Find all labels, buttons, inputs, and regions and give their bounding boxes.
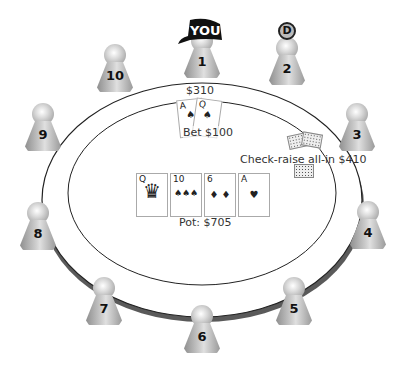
seat-9: 9 bbox=[23, 103, 63, 153]
seat-1-bet: Bet $100 bbox=[183, 126, 233, 139]
board-card-4: A ♥ bbox=[238, 173, 270, 217]
seat-6: 6 bbox=[182, 305, 222, 355]
board-card-1: Q ♛ bbox=[136, 173, 168, 217]
seat-number: 9 bbox=[23, 127, 63, 142]
seat-number: 2 bbox=[267, 61, 307, 76]
you-label: YOU bbox=[190, 23, 221, 38]
card-rank: 10 bbox=[173, 175, 184, 184]
seat-7: 7 bbox=[84, 277, 124, 327]
seat-1-stack: $310 bbox=[186, 84, 214, 97]
seat-number: 1 bbox=[182, 54, 222, 69]
queen-face-icon: ♛ bbox=[137, 186, 167, 196]
card-back-icon bbox=[294, 164, 314, 178]
dealer-button-icon: D bbox=[278, 22, 296, 40]
diamond-pips-icon: ♦ ♦ bbox=[205, 190, 235, 200]
seat-10: 10 bbox=[95, 44, 135, 94]
poker-table-diagram: 1 2 3 4 5 6 7 8 9 10 bbox=[0, 0, 404, 370]
seat-number: 7 bbox=[84, 301, 124, 316]
seat-number: 6 bbox=[182, 329, 222, 344]
spade-pips-icon: ♠♠♠ bbox=[171, 188, 201, 198]
seat-4: 4 bbox=[348, 201, 388, 251]
card-rank: A bbox=[241, 175, 247, 184]
seat-number: 8 bbox=[18, 226, 58, 241]
board-card-3: 6 ♦ ♦ bbox=[204, 173, 236, 217]
seat-2: 2 bbox=[267, 37, 307, 87]
seat-number: 4 bbox=[348, 225, 388, 240]
seat-number: 3 bbox=[337, 127, 377, 142]
seat-8: 8 bbox=[18, 202, 58, 252]
seat-5: 5 bbox=[274, 277, 314, 327]
card-suit-icon: ♠ bbox=[195, 108, 220, 121]
pot-label: Pot: $705 bbox=[179, 216, 231, 229]
heart-pip-icon: ♥ bbox=[239, 190, 269, 200]
seat-3: 3 bbox=[337, 103, 377, 153]
seat-number: 5 bbox=[274, 301, 314, 316]
card-rank: 6 bbox=[207, 175, 213, 184]
board-card-2: 10 ♠♠♠ bbox=[170, 173, 202, 217]
seat-number: 10 bbox=[95, 68, 135, 83]
